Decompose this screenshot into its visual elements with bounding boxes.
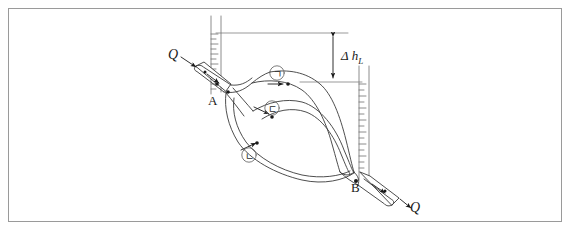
head-loss-symbol: Δ h (341, 48, 358, 63)
head-loss-label: Δ hL (341, 48, 363, 66)
junction-a-label: A (208, 93, 217, 109)
inlet-pipe (194, 62, 231, 92)
figure-canvas: Q Q A B Δ hL ㄱ ㄷ ㄴ (0, 0, 572, 233)
q-inlet-leader (181, 57, 196, 67)
branch-3-label: ㄷ (268, 101, 277, 116)
branch-2-label: ㄴ (245, 148, 254, 163)
junction-b-label: B (351, 180, 360, 196)
diagram-svg (0, 0, 572, 233)
head-loss-subscript: L (358, 56, 363, 66)
junction-a-body (224, 72, 270, 116)
piezometer-tube-b (359, 66, 369, 180)
inlet-flow-label: Q (168, 47, 178, 63)
branch-1-label: ㄱ (273, 66, 282, 81)
branch-1-pipe (252, 71, 354, 175)
outlet-flow-label: Q (410, 200, 420, 216)
